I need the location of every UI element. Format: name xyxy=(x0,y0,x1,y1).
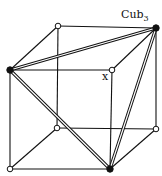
vertex-bottom-front-left xyxy=(7,166,13,172)
edge-top-front-right-to-bottom-front-right xyxy=(110,70,112,169)
vertex-top-front-right xyxy=(109,67,115,73)
vertex-bottom-back-left xyxy=(54,125,60,131)
vertex-top-front-left xyxy=(7,67,13,73)
cube-vertices xyxy=(7,23,159,172)
edge-top-back-left-to-bottom-back-left xyxy=(57,26,58,128)
vertex-x-label: x xyxy=(102,70,109,83)
cube-diagram: Cub3 x xyxy=(0,0,162,176)
edge-bottom-back-left-to-bottom-back-right xyxy=(57,128,156,129)
vertex-top-back-right xyxy=(153,25,159,31)
vertex-top-back-left xyxy=(55,23,61,29)
double-edge-top-back-right-to-bottom-front-right xyxy=(110,28,156,169)
cube-title-text: Cub xyxy=(121,8,144,21)
double-edge-top-front-left-to-bottom-front-right xyxy=(10,70,110,169)
cube-title-label: Cub3 xyxy=(121,8,149,23)
vertex-bottom-back-right xyxy=(153,126,159,132)
vertex-bottom-front-right xyxy=(107,166,113,172)
cube-title-subscript: 3 xyxy=(144,14,149,23)
edge-bottom-back-left-to-bottom-front-left xyxy=(10,128,57,169)
edge-top-back-left-to-top-back-right xyxy=(58,26,156,28)
